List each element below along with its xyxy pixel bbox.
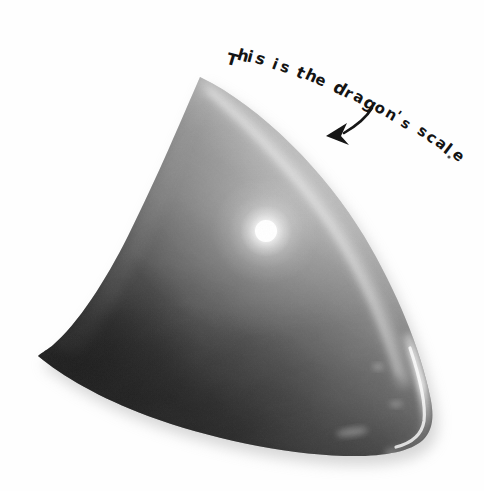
film-grain — [0, 0, 484, 491]
annotation-period — [447, 155, 450, 158]
scale-body — [0, 0, 484, 491]
image-canvas: Thisisthedragon'sscale — [0, 0, 484, 491]
scale-photograph — [0, 0, 484, 491]
pointer-arrow — [326, 108, 372, 145]
